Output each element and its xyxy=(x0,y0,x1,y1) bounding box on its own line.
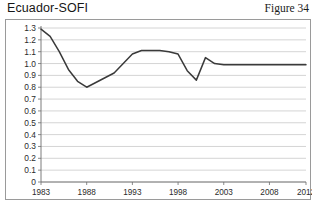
x-tick-label: 1998 xyxy=(169,188,188,197)
x-tick-label: 2012 xyxy=(297,188,312,197)
figure-header: Ecuador-SOFI Figure 34 xyxy=(0,0,317,19)
series-line xyxy=(41,29,306,87)
y-tick-label: 1.1 xyxy=(24,47,36,57)
x-axis: 1983198819931998200320082012 xyxy=(32,182,312,197)
y-tick-label: 1.3 xyxy=(24,23,36,33)
y-tick-label: 1.2 xyxy=(24,35,36,45)
x-tick-label: 1983 xyxy=(32,188,51,197)
x-tick-label: 1988 xyxy=(78,188,97,197)
y-tick-label: 0.4 xyxy=(24,130,36,140)
y-tick-label: 0 xyxy=(31,177,36,187)
y-tick-label: 0.5 xyxy=(24,118,36,128)
page-title: Ecuador-SOFI xyxy=(7,1,88,15)
x-tick-label: 1993 xyxy=(123,188,142,197)
y-tick-label: 0.8 xyxy=(24,82,36,92)
y-tick-label: 0.9 xyxy=(24,70,36,80)
plot-frame: 00.10.20.30.40.50.60.70.80.91.01.11.21.3… xyxy=(5,19,311,200)
y-tick-label: 0.1 xyxy=(24,165,36,175)
figure-number-label: Figure 34 xyxy=(265,2,309,14)
y-axis: 00.10.20.30.40.50.60.70.80.91.01.11.21.3 xyxy=(24,23,41,187)
data-series-line xyxy=(41,29,306,87)
x-tick-label: 2003 xyxy=(215,188,234,197)
x-tick-label: 2008 xyxy=(260,188,279,197)
y-tick-label: 0.3 xyxy=(24,141,36,151)
y-tick-label: 0.7 xyxy=(24,94,36,104)
figure-container: Ecuador-SOFI Figure 34 00.10.20.30.40.50… xyxy=(0,0,317,206)
y-tick-label: 1.0 xyxy=(24,59,36,69)
y-tick-label: 0.6 xyxy=(24,106,36,116)
line-chart: 00.10.20.30.40.50.60.70.80.91.01.11.21.3… xyxy=(6,20,312,201)
y-tick-label: 0.2 xyxy=(24,153,36,163)
grid-lines xyxy=(41,28,306,182)
